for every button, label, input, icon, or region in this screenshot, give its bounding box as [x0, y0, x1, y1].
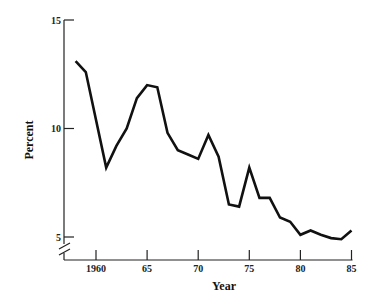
series-line	[76, 61, 352, 239]
line-chart: 1510519606570758085 Percent Year	[0, 0, 376, 303]
x-tick-label: 65	[142, 263, 152, 274]
x-tick-label: 75	[244, 263, 254, 274]
x-axis-title: Year	[212, 279, 237, 293]
x-tick-label: 80	[295, 263, 305, 274]
y-axis-title: Percent	[22, 120, 36, 159]
x-tick-label: 70	[193, 263, 203, 274]
y-tick-label: 10	[51, 123, 61, 134]
y-tick-label: 5	[56, 232, 61, 243]
data-series	[76, 61, 352, 239]
x-tick-label: 85	[347, 263, 357, 274]
x-tick-label: 1960	[86, 263, 106, 274]
y-tick-label: 15	[51, 15, 61, 26]
